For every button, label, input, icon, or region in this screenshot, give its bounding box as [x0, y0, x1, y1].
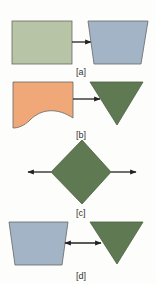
panel-b: [b]: [13, 82, 143, 140]
green-triangle-b: [90, 82, 143, 125]
flowchart-diagram: [a] [b] [c] [d]: [0, 0, 156, 284]
green-diamond: [51, 140, 111, 204]
label-a: [a]: [76, 67, 86, 77]
panel-c: [c]: [28, 140, 136, 218]
label-c: [c]: [76, 208, 86, 218]
label-b: [b]: [76, 130, 86, 140]
orange-document: [13, 82, 73, 128]
blue-trapezoid-d: [9, 222, 68, 265]
panel-d: [d]: [9, 222, 143, 281]
blue-trapezoid-a: [88, 21, 148, 64]
green-rectangle: [12, 21, 72, 64]
label-d: [d]: [76, 271, 86, 281]
panel-a: [a]: [12, 21, 148, 77]
